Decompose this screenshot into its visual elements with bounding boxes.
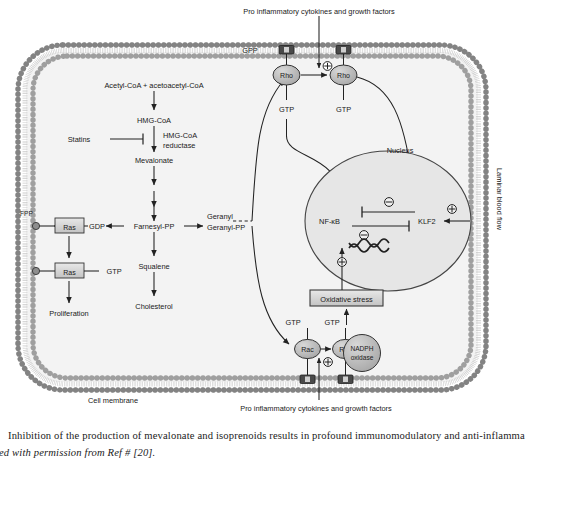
label-rac2-gtp: GTP	[324, 318, 339, 327]
plus-sign-rho	[323, 62, 332, 71]
label-geranyl-pp: Geranyl-PP	[207, 223, 245, 232]
laminar-blood-flow-label: Laminar blood flow	[495, 168, 504, 231]
node-ras-gtp: Ras	[63, 269, 76, 276]
node-acetyl-coa: Acetyl-CoA + acetoacetyl-CoA	[104, 81, 203, 90]
caption-line-2: ed with permission from Ref # [20].	[0, 447, 580, 458]
node-squalene: Squalene	[138, 262, 169, 271]
enzyme-hmg-coa-reductase-line2: reductase	[163, 141, 195, 150]
node-mevalonate: Mevalonate	[135, 156, 173, 165]
node-statins: Statins	[68, 135, 91, 144]
node-nfkb: NF-κB	[319, 217, 340, 226]
node-klf2: KLF2	[418, 217, 436, 226]
node-cholesterol: Cholesterol	[135, 302, 173, 311]
label-proliferation: Proliferation	[49, 309, 88, 318]
node-ras-gdp: Ras	[63, 224, 76, 231]
node-rac-1-label: Rac	[301, 346, 314, 353]
label-cytokines-bottom: Pro inflammatory cytokines and growth fa…	[240, 404, 392, 413]
minus-sign-nfkb-on-dna	[360, 231, 369, 240]
plus-sign-klf2	[448, 205, 457, 214]
enzyme-hmg-coa-reductase-line1: HMG-CoA	[163, 131, 197, 140]
label-nadph-line1: NADPH	[350, 345, 373, 352]
nucleus-label: Nucleus	[387, 146, 414, 155]
label-cytokines-top: Pro inflammatory cytokines and growth fa…	[243, 7, 395, 16]
node-nadph-oxidase	[344, 335, 381, 372]
label-geranyl: Geranyl	[207, 212, 233, 221]
plus-sign-rac	[324, 358, 333, 367]
caption-line-1: Inhibition of the production of mevalona…	[8, 430, 581, 441]
label-rho1-gtp: GTP	[279, 105, 294, 114]
node-farnesyl-pp: Farnesyl-PP	[134, 222, 175, 231]
label-gtp-ras: GTP	[106, 267, 121, 276]
label-gdp: GDP	[89, 222, 105, 231]
label-gpp: GPP	[242, 46, 258, 55]
label-oxidative-stress: Oxidative stress	[320, 295, 373, 304]
node-rho-2-label: Rho	[337, 72, 350, 79]
label-rac1-gtp: GTP	[285, 318, 300, 327]
node-rho-1-label: Rho	[280, 72, 293, 79]
label-fpp: FPP	[20, 210, 33, 217]
node-hmg-coa: HMG-CoA	[137, 116, 171, 125]
minus-sign-klf2-on-nfkb	[385, 198, 394, 207]
plus-sign-nfkb-bottom	[338, 258, 347, 267]
label-cell-membrane: Cell membrane	[88, 396, 138, 405]
label-nadph-line2: oxidase	[351, 354, 374, 361]
label-rho2-gtp: GTP	[336, 105, 351, 114]
